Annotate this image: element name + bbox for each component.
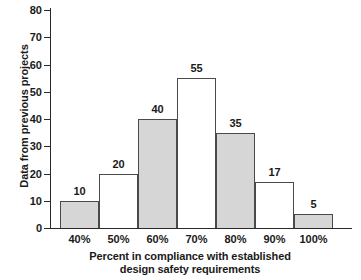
bar-chart: Data from previous projects 010203040506… bbox=[0, 0, 361, 280]
bar-value-label: 5 bbox=[294, 199, 333, 210]
bar bbox=[177, 78, 216, 228]
y-axis-tick-label: 80 bbox=[0, 5, 42, 16]
y-axis-tick-label-text: 50 bbox=[2, 87, 42, 98]
y-axis-tick-label-text: 60 bbox=[2, 60, 42, 71]
x-axis-line bbox=[50, 228, 352, 229]
bar-value-label: 55 bbox=[177, 63, 216, 74]
y-axis-tick bbox=[44, 228, 51, 229]
y-axis-tick-label-text: 20 bbox=[2, 169, 42, 180]
x-axis-tick-label: 100% bbox=[289, 233, 339, 245]
y-axis-tick-label-text: 40 bbox=[2, 114, 42, 125]
y-axis-tick-label: 40 bbox=[0, 114, 42, 125]
y-axis-tick-label: 50 bbox=[0, 87, 42, 98]
bar bbox=[294, 214, 333, 228]
bar-value-label: 10 bbox=[60, 186, 99, 197]
y-axis-tick-label-text: 70 bbox=[2, 32, 42, 43]
bar bbox=[216, 133, 255, 228]
bar-value-label: 40 bbox=[138, 104, 177, 115]
y-axis-tick-label-text: 80 bbox=[2, 5, 42, 16]
y-axis-tick-label-text: 10 bbox=[2, 196, 42, 207]
x-axis-title: Percent in compliance with established d… bbox=[40, 250, 340, 276]
bar bbox=[255, 182, 294, 228]
y-axis-tick-label-text: 0 bbox=[2, 223, 42, 234]
bar bbox=[138, 119, 177, 228]
bar-value-label: 35 bbox=[216, 118, 255, 129]
bar-value-label: 20 bbox=[99, 159, 138, 170]
bar-value-label: 17 bbox=[255, 167, 294, 178]
bar bbox=[99, 174, 138, 229]
y-axis-tick-label: 0 bbox=[0, 223, 42, 234]
y-axis-tick-label: 20 bbox=[0, 169, 42, 180]
y-axis-tick-label: 70 bbox=[0, 32, 42, 43]
x-axis-title-line2: design safety requirements bbox=[40, 263, 340, 276]
y-axis-tick-label: 30 bbox=[0, 141, 42, 152]
x-axis-title-line1: Percent in compliance with established bbox=[89, 250, 291, 262]
y-axis-tick-label: 10 bbox=[0, 196, 42, 207]
bar bbox=[60, 201, 99, 228]
y-axis-tick-label: 60 bbox=[0, 60, 42, 71]
y-axis-tick-label-text: 30 bbox=[2, 141, 42, 152]
